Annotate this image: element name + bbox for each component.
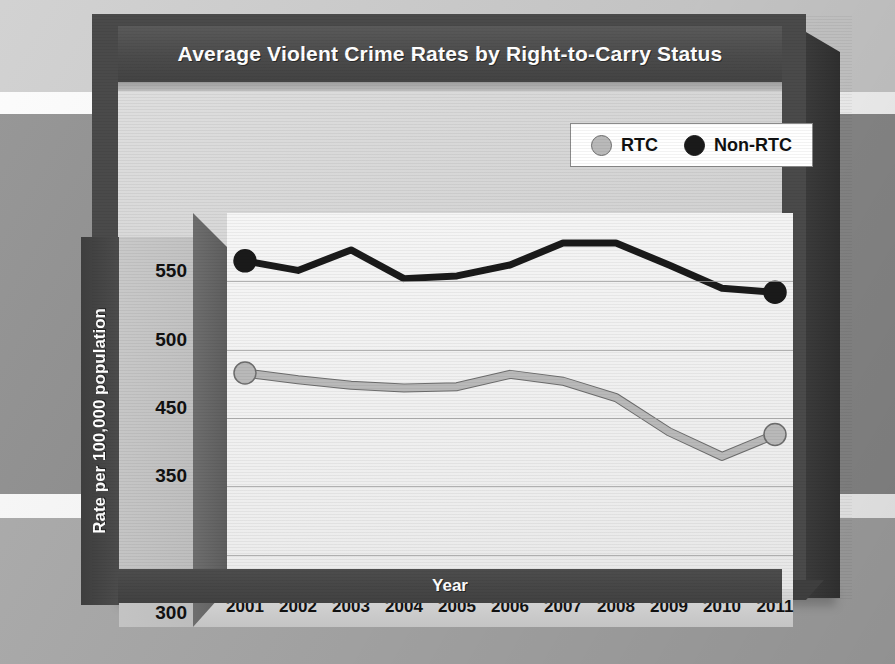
series-line: [245, 373, 775, 456]
legend-item[interactable]: RTC: [591, 135, 658, 156]
legend-marker-icon: [591, 135, 612, 156]
x-axis-title-band: Year: [118, 569, 782, 603]
series-layer: [227, 213, 793, 589]
y-tick-label: 350: [155, 465, 187, 487]
figure-right-bevel: [806, 32, 840, 598]
title-banner-lip: [118, 82, 782, 91]
plot-left-wall: [193, 213, 227, 627]
series-endpoint-marker: [764, 423, 786, 445]
series-endpoint-marker: [764, 281, 786, 303]
series-endpoint-marker: [234, 362, 256, 384]
legend-marker-icon: [684, 135, 705, 156]
y-tick-label: 450: [155, 397, 187, 419]
legend-label: RTC: [621, 135, 658, 156]
gridline: [227, 281, 793, 282]
y-tick-label: 300: [155, 602, 187, 624]
gridline: [227, 418, 793, 419]
chart-legend[interactable]: RTCNon-RTC: [570, 123, 813, 167]
gridline: [227, 486, 793, 487]
figure-frame: Average Violent Crime Rates by Right-to-…: [92, 14, 806, 580]
y-axis-title: Rate per 100,000 population: [90, 308, 110, 534]
series-endpoint-marker: [234, 250, 256, 272]
gridline: [227, 350, 793, 351]
x-axis-title: Year: [432, 576, 468, 596]
y-tick-label: 550: [155, 260, 187, 282]
legend-label: Non-RTC: [714, 135, 792, 156]
y-axis-title-strip: Rate per 100,000 population: [81, 237, 119, 605]
gridline: [227, 555, 793, 556]
chart-panel: Rate per 100,000 population 550500450350…: [118, 91, 782, 569]
y-tick-label: 500: [155, 329, 187, 351]
chart-title-banner: Average Violent Crime Rates by Right-to-…: [118, 26, 782, 82]
legend-item[interactable]: Non-RTC: [684, 135, 792, 156]
plot-area: [227, 213, 793, 589]
chart-title: Average Violent Crime Rates by Right-to-…: [178, 42, 723, 66]
series-line: [245, 243, 775, 292]
chart-figure: Average Violent Crime Rates by Right-to-…: [92, 14, 852, 599]
